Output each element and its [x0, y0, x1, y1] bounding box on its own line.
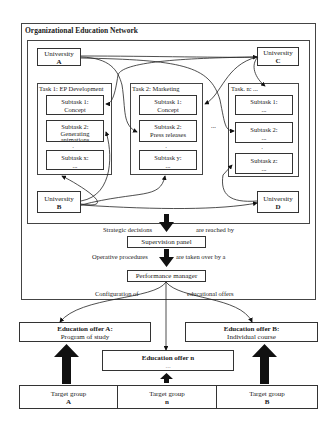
- connector-a-to-tns2: [81, 58, 234, 131]
- connector-a-to-c: [81, 56, 257, 57]
- connector-d-to-tnsz: [222, 165, 257, 201]
- connectors-layer: [0, 0, 334, 426]
- connector-c-to-t2s1: [205, 57, 257, 104]
- connector-b-to-d: [81, 203, 257, 209]
- thick-arrow-target-a-to-offer-a: [54, 344, 79, 384]
- thick-arrow-to-supervision: [159, 214, 174, 232]
- connector-b-to-t1s2: [81, 132, 110, 201]
- connector-c-to-t1s1: [106, 57, 257, 104]
- connector-c-to-tns1: [254, 57, 265, 86]
- connector-pm-to-offer-a: [60, 282, 166, 322]
- connector-b-to-t1sx: [62, 176, 98, 205]
- connector-a-to-t2s2: [81, 57, 137, 132]
- connector-pm-to-offer-b: [166, 282, 252, 322]
- thick-arrow-to-performance: [159, 249, 174, 267]
- connector-b-to-t2sy: [81, 176, 165, 205]
- thick-arrow-target-b-to-offer-b: [252, 344, 277, 384]
- thick-arrow-target-n-to-offer-n: [160, 373, 173, 383]
